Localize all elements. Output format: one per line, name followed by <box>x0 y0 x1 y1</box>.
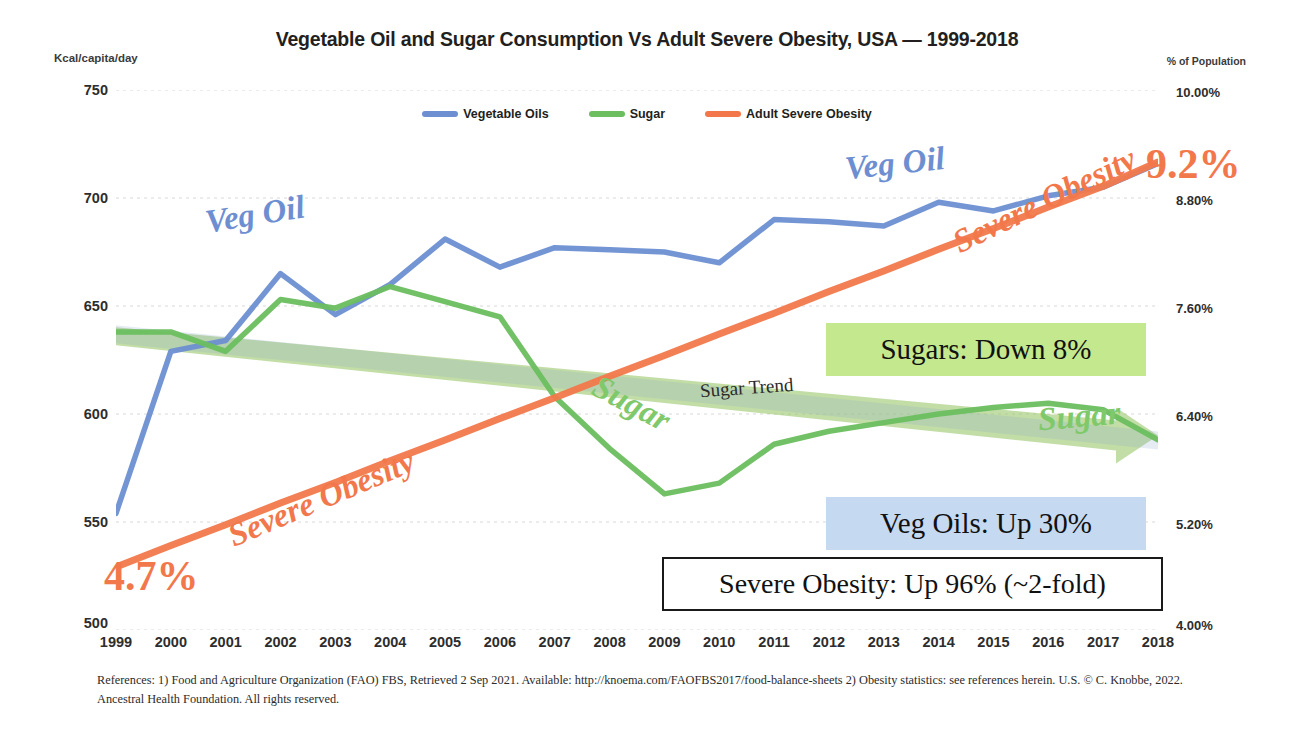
endpoint-value-start: 4.7% <box>104 552 199 600</box>
x-axis-tick-label: 2007 <box>528 634 582 650</box>
x-axis-tick-label: 2003 <box>308 634 362 650</box>
y2-axis-tick-label: 6.40% <box>1176 409 1213 424</box>
endpoint-value-end: 9.2% <box>1146 140 1241 188</box>
x-axis-tick-label: 2015 <box>966 634 1020 650</box>
y-axis-tick-label: 500 <box>52 615 108 631</box>
x-axis-tick-label: 2013 <box>857 634 911 650</box>
x-axis-tick-label: 2012 <box>802 634 856 650</box>
y-axis-tick-label: 650 <box>52 298 108 314</box>
y2-axis-tick-label: 10.00% <box>1176 85 1220 100</box>
right-axis-title: % of Population <box>1167 55 1246 67</box>
y2-axis-tick-label: 5.20% <box>1176 517 1213 532</box>
y2-axis-tick-label: 7.60% <box>1176 301 1213 316</box>
y2-axis-tick-label: 4.00% <box>1176 618 1213 633</box>
x-axis-tick-label: 2011 <box>747 634 801 650</box>
x-axis-tick-label: 2004 <box>363 634 417 650</box>
y-axis-tick-label: 750 <box>52 82 108 98</box>
y2-axis-tick-label: 8.80% <box>1176 193 1213 208</box>
y-axis-tick-label: 600 <box>52 406 108 422</box>
x-axis-tick-label: 2002 <box>254 634 308 650</box>
x-axis-tick-label: 2008 <box>583 634 637 650</box>
callout-sugars: Sugars: Down 8% <box>826 323 1146 376</box>
x-axis-tick-label: 2005 <box>418 634 472 650</box>
y-axis-tick-label: 550 <box>52 514 108 530</box>
references-footer: References: 1) Food and Agriculture Orga… <box>97 671 1207 709</box>
chart-page: Vegetable Oil and Sugar Consumption Vs A… <box>0 0 1294 741</box>
x-axis-tick-label: 2006 <box>473 634 527 650</box>
x-axis-tick-label: 2018 <box>1131 634 1185 650</box>
x-axis-tick-label: 2001 <box>199 634 253 650</box>
x-axis-tick-label: 2009 <box>637 634 691 650</box>
y-axis-tick-label: 700 <box>52 190 108 206</box>
callout-veg-oils: Veg Oils: Up 30% <box>826 497 1146 550</box>
left-axis-title: Kcal/capita/day <box>54 52 138 64</box>
x-axis-tick-label: 2017 <box>1076 634 1130 650</box>
x-axis-tick-label: 2014 <box>912 634 966 650</box>
series-label-sugar: Sugar <box>1037 394 1122 438</box>
x-axis-tick-label: 2010 <box>692 634 746 650</box>
page-title: Vegetable Oil and Sugar Consumption Vs A… <box>0 28 1294 51</box>
x-axis-tick-label: 2000 <box>144 634 198 650</box>
callout-severe-obesity: Severe Obesity: Up 96% (~2-fold) <box>662 557 1163 611</box>
x-axis-tick-label: 2016 <box>1021 634 1075 650</box>
x-axis-tick-label: 1999 <box>89 634 143 650</box>
